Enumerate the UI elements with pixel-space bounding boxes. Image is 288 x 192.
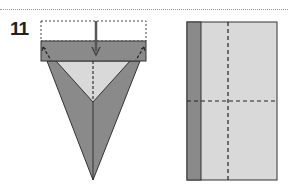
flap-outline-dotted bbox=[41, 21, 146, 41]
right-diagram bbox=[187, 22, 277, 180]
left-diagram bbox=[41, 21, 146, 180]
origami-diagrams bbox=[0, 0, 288, 192]
